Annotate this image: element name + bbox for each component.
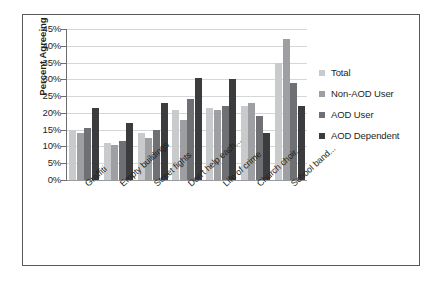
y-axis-tick-label: 40% (27, 41, 61, 51)
legend-swatch-icon (319, 70, 325, 76)
y-axis-tick-label: 20% (27, 108, 61, 118)
bar (195, 78, 202, 180)
y-axis-tick (61, 96, 66, 97)
y-axis-tick (61, 130, 66, 131)
legend-swatch-icon (319, 91, 325, 97)
legend-item[interactable]: Non-AOD User (319, 83, 419, 104)
legend-swatch-icon (319, 133, 325, 139)
bar (229, 79, 236, 180)
legend-label: Non-AOD User (331, 89, 394, 99)
legend-item[interactable]: AOD Dependent (319, 125, 419, 146)
bar (111, 145, 118, 180)
y-axis-tick-label: 25% (27, 91, 61, 101)
chart-figure: Percent Agreeing 0%5%10%15%20%25%30%35%4… (22, 14, 420, 266)
y-axis-tick-label: 15% (27, 125, 61, 135)
y-axis-tick (61, 113, 66, 114)
bar (84, 128, 91, 180)
legend-swatch-icon (319, 112, 325, 118)
y-axis-tick-label: 45% (27, 24, 61, 34)
y-axis-tick (61, 46, 66, 47)
y-axis-tick (61, 180, 66, 181)
legend-label: AOD Dependent (331, 131, 399, 141)
y-axis-tick (61, 63, 66, 64)
bar (69, 130, 76, 180)
x-axis-tick-labels: GraffitiEmpty buildingsStreet fightsDon'… (67, 181, 317, 261)
legend-item[interactable]: AOD User (319, 104, 419, 125)
bar (77, 133, 84, 180)
bar (290, 83, 297, 180)
y-axis-tick-label: 10% (27, 141, 61, 151)
y-axis-tick (61, 79, 66, 80)
bar-group (67, 29, 101, 180)
bar-group (101, 29, 135, 180)
y-axis-tick (61, 29, 66, 30)
legend-item[interactable]: Total (319, 62, 419, 83)
chart-legend: TotalNon-AOD UserAOD UserAOD Dependent (319, 62, 419, 146)
bar (256, 116, 263, 180)
y-axis-tick (61, 163, 66, 164)
y-axis-tick-label: 0% (27, 175, 61, 185)
legend-label: AOD User (331, 110, 373, 120)
y-axis-tick-labels: 0%5%10%15%20%25%30%35%40%45% (23, 15, 61, 195)
y-axis-tick (61, 146, 66, 147)
y-axis-tick-label: 30% (27, 74, 61, 84)
bar (214, 110, 221, 180)
y-axis-tick-label: 35% (27, 58, 61, 68)
y-axis-tick-label: 5% (27, 158, 61, 168)
legend-label: Total (331, 68, 351, 78)
bar (187, 99, 194, 180)
